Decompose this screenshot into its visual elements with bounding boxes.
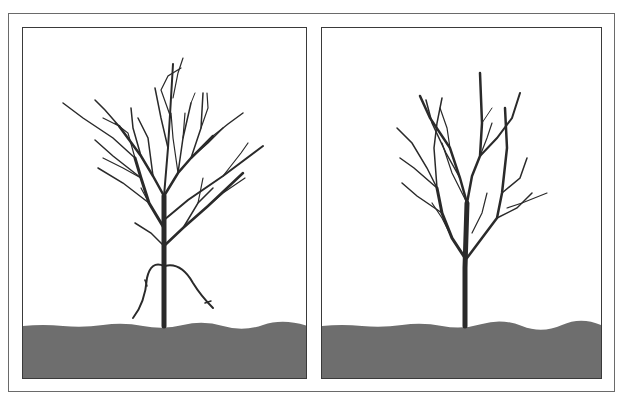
tree-pruned-illustration <box>322 28 602 379</box>
tree-unpruned-illustration <box>23 28 307 379</box>
panel-after-pruning <box>321 27 602 379</box>
panel-before-pruning <box>22 27 307 379</box>
ground <box>322 321 602 379</box>
branches <box>397 73 547 326</box>
ground <box>23 322 307 379</box>
branches <box>63 58 263 326</box>
